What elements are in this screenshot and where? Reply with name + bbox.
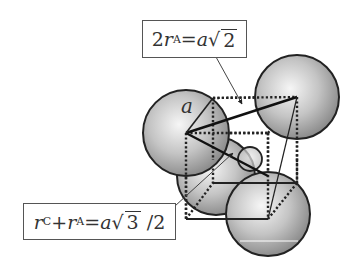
edge-label-a: a (181, 94, 193, 118)
sqrt-icon: √ (112, 211, 124, 233)
plus-sign: + (51, 211, 67, 233)
var-a: a (197, 28, 208, 50)
sqrt-argument: 3 (125, 211, 141, 232)
sqrt-icon: √ (208, 28, 220, 50)
coefficient: 2 (152, 28, 164, 50)
subscript-a: A (173, 33, 181, 46)
face-diagonal-label: 2rA=a√2 (142, 20, 247, 58)
var-r: r (34, 211, 43, 233)
leader-arrow-face-diagonal (216, 57, 242, 104)
var-r: r (164, 28, 173, 50)
sqrt-argument: 2 (221, 29, 237, 50)
divisor: /2 (141, 211, 166, 233)
subscript-c: C (43, 215, 51, 228)
var-a: a (100, 211, 111, 233)
var-r: r (67, 211, 76, 233)
subscript-a: A (76, 215, 84, 228)
body-diagonal-label: rC+rA=a√3 /2 (23, 203, 176, 240)
equals-sign: = (84, 211, 100, 233)
equals-sign: = (181, 28, 197, 50)
